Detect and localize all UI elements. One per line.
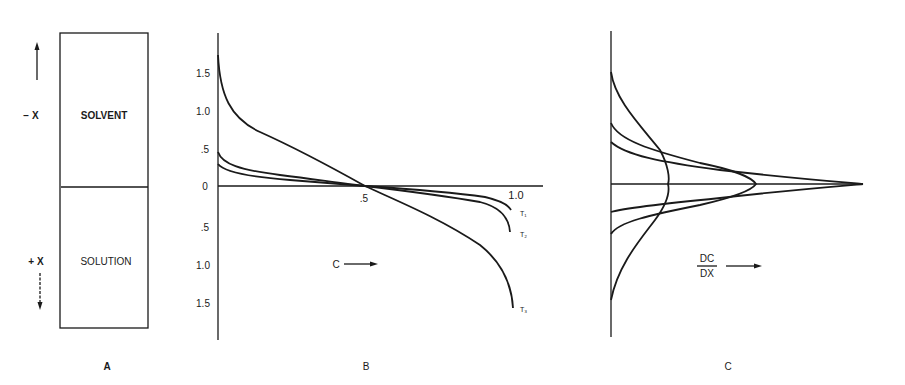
figure: SOLVENT SOLUTION − X + X A 1.5 1.0 .5 0 … — [0, 0, 905, 385]
gradient-curve-t2 — [611, 123, 756, 234]
curve-label-t2: T₂ — [520, 231, 527, 238]
curve-label-t1: T₁ — [520, 210, 527, 217]
arrowhead-icon — [754, 264, 762, 269]
down-arrowhead-icon — [38, 302, 43, 310]
solution-label: SOLUTION — [80, 256, 131, 267]
y-tick: .5 — [201, 222, 210, 233]
cell-box — [60, 33, 148, 328]
minus-x-label: − X — [23, 110, 39, 121]
curve-t3 — [218, 55, 513, 308]
panel-a: SOLVENT SOLUTION − X + X A — [23, 33, 148, 372]
gradient-curve-t1 — [611, 142, 863, 212]
plus-x-label: + X — [28, 256, 44, 267]
y-tick: 0 — [202, 181, 208, 192]
y-tick: 1.5 — [196, 298, 210, 309]
arrowhead-icon — [370, 262, 378, 267]
panel-b-label: B — [363, 361, 370, 372]
curve-t2 — [218, 152, 510, 232]
y-tick: .5 — [201, 144, 210, 155]
x-tick-mid: .5 — [360, 193, 369, 204]
y-tick: 1.5 — [196, 68, 210, 79]
dc-label: DC — [700, 253, 714, 264]
solvent-label: SOLVENT — [81, 110, 127, 121]
panel-c: DC DX C — [611, 31, 863, 372]
dx-label: DX — [700, 268, 714, 279]
panel-a-label: A — [103, 361, 110, 372]
gradient-curve-t3 — [611, 72, 669, 300]
panel-c-label: C — [724, 361, 731, 372]
panel-b: 1.5 1.0 .5 0 .5 1.0 1.5 .5 1.0 T₁ T₂ T₃ … — [196, 33, 543, 372]
up-arrowhead-icon — [35, 42, 40, 50]
x-tick-end: 1.0 — [508, 189, 523, 201]
curve-label-t3: T₃ — [520, 306, 527, 313]
x-axis-label: C — [332, 259, 339, 270]
y-tick: 1.0 — [196, 106, 210, 117]
y-tick: 1.0 — [196, 260, 210, 271]
